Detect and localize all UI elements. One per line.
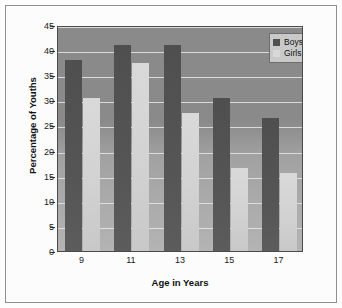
legend-label-boys: Boys: [284, 38, 303, 47]
bar-girls-age-17: [280, 173, 297, 251]
plot-area: Boys Girls: [57, 26, 303, 252]
x-axis-title: Age in Years: [57, 277, 303, 288]
legend-swatch-boys-icon: [273, 39, 280, 46]
x-axis-tick-labels: 911131517: [57, 256, 303, 270]
gridline: [58, 27, 302, 28]
legend-swatch-girls-icon: [273, 50, 280, 57]
x-axis-tick-label: 15: [209, 256, 249, 265]
x-axis-tick-label: 9: [62, 256, 102, 265]
bar-boys-age-15: [213, 98, 230, 251]
x-axis-tick-label: 11: [111, 256, 151, 265]
legend-item-boys: Boys: [273, 37, 303, 48]
bar-girls-age-11: [132, 63, 149, 251]
chart-legend: Boys Girls: [269, 33, 303, 63]
legend-label-girls: Girls: [284, 49, 301, 58]
x-axis-tick-label: 13: [160, 256, 200, 265]
bar-girls-age-9: [83, 98, 100, 251]
bar-boys-age-9: [65, 60, 82, 251]
y-axis-tick-label: 0: [14, 248, 54, 257]
bar-boys-age-11: [114, 45, 131, 251]
legend-item-girls: Girls: [273, 48, 303, 59]
bar-girls-age-13: [182, 113, 199, 251]
bar-boys-age-17: [262, 118, 279, 251]
bar-girls-age-15: [231, 168, 248, 251]
chart-page: 051015202530354045 Boys Girls 911131517 …: [0, 0, 342, 308]
bar-chart: 051015202530354045 Boys Girls 911131517 …: [0, 0, 342, 308]
y-axis-title: Percentage of Youths: [27, 26, 38, 226]
bar-boys-age-13: [164, 45, 181, 251]
x-axis-tick-label: 17: [258, 256, 298, 265]
